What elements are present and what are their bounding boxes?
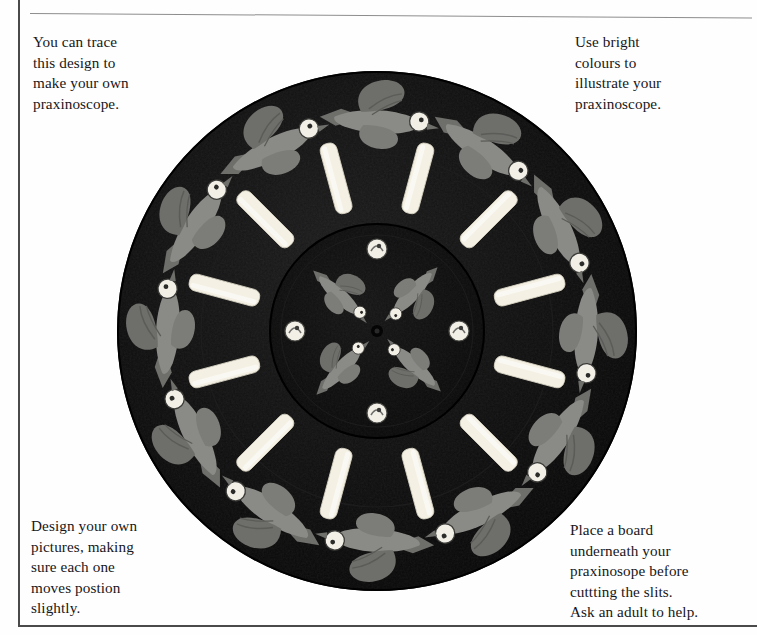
inner-bird-head [367,239,387,259]
page-border-left [18,0,20,627]
page-canvas: You can trace this design to make your o… [0,0,757,635]
praxinoscope-illustration [110,70,644,592]
inner-bird-head [367,403,387,423]
page-header-rule [30,13,752,18]
disc-hub [371,325,383,337]
praxinoscope-disc-svg [110,70,644,592]
page-border-bottom [18,625,757,627]
inner-bird-head [285,321,305,341]
inner-bird-head [449,321,469,341]
